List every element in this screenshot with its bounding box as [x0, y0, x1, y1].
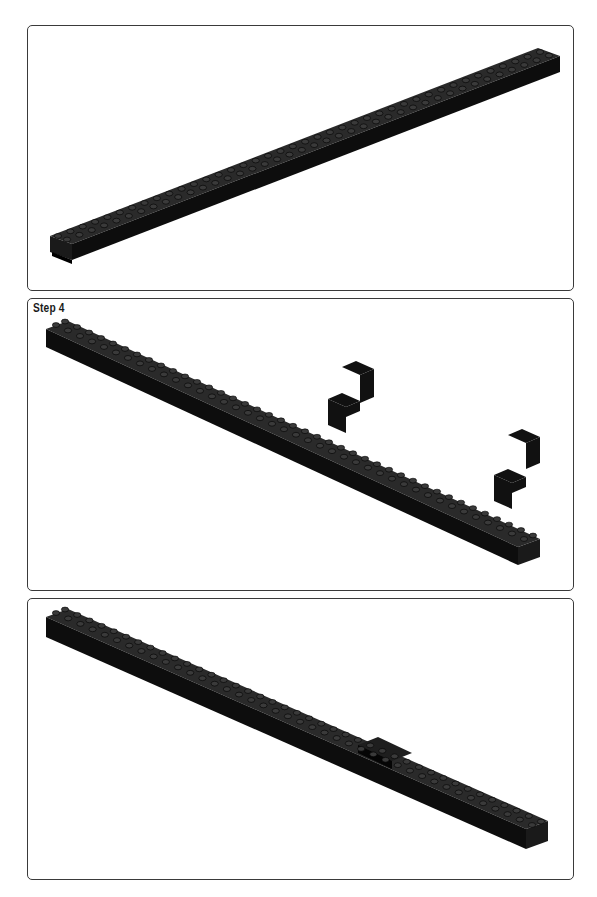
- technic-beam-illustration: [28, 26, 574, 291]
- joined-technic-beams-illustration: [28, 599, 574, 880]
- technic-beam-with-brackets-illustration: [28, 299, 574, 591]
- instruction-panel-2: Step 4: [27, 298, 574, 591]
- instruction-panel-3: [27, 598, 574, 880]
- instruction-panel-1: [27, 25, 574, 291]
